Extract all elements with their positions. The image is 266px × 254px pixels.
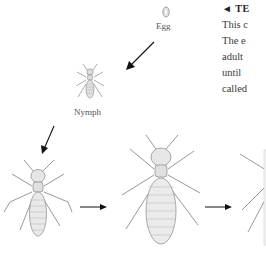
egg-label: Egg: [156, 21, 171, 31]
worker-termite-icon: [2, 160, 74, 246]
caption-line: adult: [222, 49, 266, 65]
arrow-reproductive-to-winged: [205, 203, 233, 211]
caption-line: called: [222, 81, 266, 97]
arrow-nymph-to-worker: [38, 125, 58, 155]
figure-caption: ◄ TE This c The e adult until called: [222, 1, 266, 97]
arrow-worker-to-reproductive: [80, 203, 108, 211]
winged-termite-icon: [238, 150, 266, 245]
nymph-label: Nymph: [74, 107, 101, 117]
arrow-egg-to-nymph: [124, 40, 156, 72]
caption-line: The e: [222, 33, 266, 49]
reproductive-termite-icon: [118, 135, 204, 247]
caption-line: until: [222, 65, 266, 81]
nymph-icon: [70, 64, 110, 104]
egg-icon: [161, 5, 171, 19]
caption-line: This c: [222, 17, 266, 33]
caption-heading: ◄ TE: [222, 1, 266, 17]
